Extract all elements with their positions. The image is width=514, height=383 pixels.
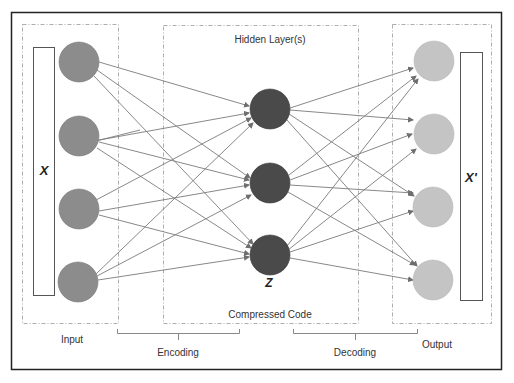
hidden-layers-label: Hidden Layer(s) bbox=[234, 34, 305, 45]
input-vector-label: X bbox=[40, 163, 49, 178]
input-nodes bbox=[58, 42, 99, 302]
output-node-3 bbox=[413, 187, 453, 227]
decoding-label: Decoding bbox=[334, 347, 376, 358]
decoding-bracket bbox=[294, 329, 418, 340]
input-node-2 bbox=[59, 116, 99, 156]
output-vector-label: X' bbox=[465, 170, 477, 185]
compressed-code-label: Compressed Code bbox=[228, 309, 311, 320]
hidden-node-2 bbox=[250, 163, 290, 203]
decoding-edges bbox=[287, 68, 418, 280]
output-nodes bbox=[413, 41, 454, 300]
code-label: Z bbox=[265, 276, 272, 290]
encoding-label: Encoding bbox=[157, 347, 199, 358]
autoencoder-diagram bbox=[0, 0, 514, 383]
input-node-3 bbox=[59, 189, 99, 229]
encoding-edges bbox=[94, 62, 253, 280]
input-node-1 bbox=[59, 42, 99, 82]
encoding-bracket bbox=[118, 329, 240, 340]
input-node-4 bbox=[58, 262, 98, 302]
output-label: Output bbox=[422, 339, 452, 350]
hidden-node-3 bbox=[250, 235, 290, 275]
output-node-1 bbox=[414, 41, 454, 81]
hidden-node-1 bbox=[250, 89, 290, 129]
input-label: Input bbox=[61, 334, 83, 345]
hidden-nodes bbox=[250, 89, 290, 275]
output-node-4 bbox=[413, 260, 453, 300]
output-node-2 bbox=[414, 114, 454, 154]
